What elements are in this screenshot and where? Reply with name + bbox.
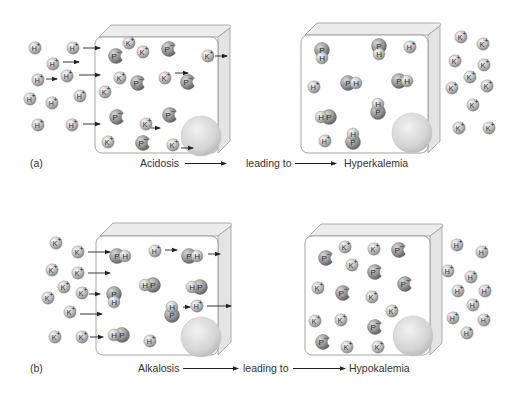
protein-hydrogen-complex: PH xyxy=(341,76,363,91)
membrane-top-edge xyxy=(305,23,441,35)
hydrogen-ion: H+ xyxy=(29,41,41,54)
cause-label: Acidosis xyxy=(140,157,179,169)
potassium-ion: K+ xyxy=(64,305,76,318)
svg-text:H: H xyxy=(376,50,382,59)
svg-text:+: + xyxy=(461,121,465,128)
svg-text:P: P xyxy=(169,311,174,320)
effect-label: Hypokalemia xyxy=(349,362,410,374)
svg-text:H: H xyxy=(142,281,148,290)
caption-row: (b)Alkalosisleading toHypokalemia xyxy=(30,362,410,374)
protein-anion: P− xyxy=(131,76,145,91)
svg-text:+: + xyxy=(485,37,489,44)
protein-anion: P− xyxy=(136,136,150,151)
middle-label: leading to xyxy=(243,362,289,374)
hydrogen-ion: H+ xyxy=(479,284,491,297)
protein-anion: P− xyxy=(109,49,123,64)
protein-hydrogen-complex: PH xyxy=(186,280,208,295)
svg-text:H: H xyxy=(404,77,410,86)
svg-text:+: + xyxy=(454,81,458,88)
hydrogen-ion: H+ xyxy=(67,41,79,54)
protein-hydrogen-complex: PH xyxy=(346,128,361,150)
svg-text:−: − xyxy=(189,75,193,82)
svg-text:+: + xyxy=(460,284,464,291)
svg-text:+: + xyxy=(469,326,473,333)
hydrogen-ion: H+ xyxy=(461,326,473,339)
effect-label: Hyperkalemia xyxy=(344,157,408,169)
panel-b: PHH+PHPHPHPHPHH+PHH+K+K+P−P−K+P−K+P−P−K+… xyxy=(30,223,491,374)
svg-text:P: P xyxy=(326,113,331,122)
membrane-top-edge xyxy=(309,224,443,236)
protein-anion: P− xyxy=(181,75,195,90)
svg-text:H: H xyxy=(111,331,117,340)
svg-text:+: + xyxy=(455,311,459,318)
svg-text:−: − xyxy=(327,251,331,258)
cell-after-alkalosis: K+K+P−P−K+P−K+P−P−K+K+K+K+P−P−K+K+ xyxy=(305,224,443,356)
cause-label: Alkalosis xyxy=(138,362,179,374)
panel-label: (a) xyxy=(30,157,43,169)
potassium-ion: K+ xyxy=(467,98,479,111)
protein-anion: P− xyxy=(163,108,177,123)
svg-text:+: + xyxy=(327,134,331,141)
protein-hydrogen-complex: PH xyxy=(372,39,387,61)
svg-text:+: + xyxy=(58,236,62,243)
potassium-ion: K+ xyxy=(372,340,384,353)
svg-text:+: + xyxy=(475,298,479,305)
hydrogen-ion: H+ xyxy=(46,96,58,109)
hydrogen-ion: H+ xyxy=(467,298,479,311)
protein-hydrogen-complex: PH xyxy=(315,43,330,65)
svg-text:+: + xyxy=(37,41,41,48)
protein-anion: P− xyxy=(110,110,124,125)
potassium-ion: K+ xyxy=(446,81,458,94)
svg-text:+: + xyxy=(69,69,73,76)
svg-text:−: − xyxy=(324,335,328,342)
svg-text:+: + xyxy=(473,270,477,277)
protein-hydrogen-complex: PH xyxy=(392,74,414,89)
protein-hydrogen-complex: PH xyxy=(110,249,132,264)
potassium-ion: K+ xyxy=(339,240,351,253)
cell-before-alkalosis: PHH+PHPHPHPHPHH+PHH+ xyxy=(80,223,232,357)
protein-anion: P− xyxy=(319,251,333,266)
svg-text:+: + xyxy=(354,258,358,265)
panel-label: (b) xyxy=(30,362,43,374)
nucleus xyxy=(181,317,221,357)
protein-anion: P− xyxy=(392,243,406,258)
potassium-ion: K+ xyxy=(58,280,70,293)
hydrogen-ion: H+ xyxy=(308,80,320,93)
protein-hydrogen-complex: PH xyxy=(139,278,161,293)
svg-text:H: H xyxy=(111,298,117,307)
protein-anion: P− xyxy=(368,320,382,335)
svg-text:+: + xyxy=(491,121,495,128)
potassium-ion: K+ xyxy=(341,340,353,353)
caption-row: (a)Acidosisleading toHyperkalemia xyxy=(30,157,408,169)
svg-text:+: + xyxy=(72,305,76,312)
potassium-ion: K+ xyxy=(140,117,152,130)
hydrogen-ion: H+ xyxy=(451,238,463,251)
svg-text:+: + xyxy=(463,30,467,37)
hydrogen-ion: H+ xyxy=(74,89,86,102)
svg-text:+: + xyxy=(175,138,179,145)
potassium-ion: K+ xyxy=(102,135,114,148)
svg-text:+: + xyxy=(459,238,463,245)
hydrogen-ion: H+ xyxy=(191,299,203,312)
svg-text:H: H xyxy=(194,252,200,261)
svg-text:+: + xyxy=(157,244,161,251)
potassium-ion: K+ xyxy=(366,290,378,303)
potassium-ion: K+ xyxy=(114,71,126,84)
hydrogen-ion: H+ xyxy=(24,92,36,105)
potassium-ion: K+ xyxy=(477,37,489,50)
svg-text:+: + xyxy=(210,49,214,56)
protein-hydrogen-complex: PH xyxy=(182,249,204,264)
svg-text:+: + xyxy=(122,71,126,78)
acid-base-potassium-diagram: K+K+P−P−K+K+P−K+P−K+P−P−K+K+P−K+PHPHH+H+… xyxy=(0,0,518,393)
svg-text:+: + xyxy=(152,334,156,341)
cell-after-acidosis: PHPHH+H+PHPHPHPHH+PH xyxy=(301,23,441,153)
svg-text:+: + xyxy=(74,118,78,125)
svg-text:H: H xyxy=(319,54,325,63)
potassium-ion: K+ xyxy=(335,313,347,326)
svg-text:−: − xyxy=(400,243,404,250)
potassium-ion: K+ xyxy=(481,79,493,92)
svg-text:H: H xyxy=(318,113,324,122)
svg-text:−: − xyxy=(170,42,174,49)
hydrogen-ion: H+ xyxy=(404,40,416,53)
protein-anion: P− xyxy=(336,286,350,301)
